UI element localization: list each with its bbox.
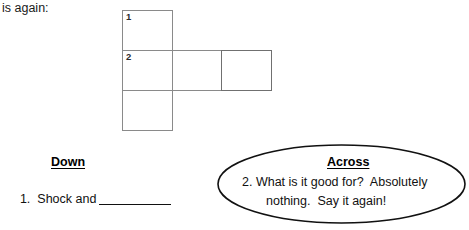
across-clue-2-line-1: 2. What is it good for? Absolutely	[242, 174, 428, 191]
down-clues-heading: Down	[51, 154, 85, 170]
grid-cell-row2-col2[interactable]	[172, 50, 222, 91]
worksheet-page: is again: 1 2 Down 1. Shock and Across 2…	[0, 0, 469, 230]
page-top-text: is again:	[2, 1, 49, 16]
grid-cell-row2-col3[interactable]	[221, 50, 272, 91]
across-clue-2-line-2: nothing. Say it again!	[266, 193, 386, 210]
across-clues-heading: Across	[327, 154, 369, 170]
down-clue-1-answer-blank[interactable]	[99, 204, 171, 205]
down-clue-1-text: Shock and	[37, 192, 96, 206]
grid-cell-number: 2	[126, 51, 131, 63]
down-clue-1-number: 1.	[20, 192, 30, 206]
down-clue-1: 1. Shock and	[6, 174, 171, 225]
grid-cell-number: 1	[126, 11, 131, 23]
grid-cell-row2-col1[interactable]: 2	[122, 50, 173, 91]
grid-cell-row3-col1[interactable]	[122, 90, 173, 131]
grid-cell-row1-col1[interactable]: 1	[122, 10, 173, 51]
